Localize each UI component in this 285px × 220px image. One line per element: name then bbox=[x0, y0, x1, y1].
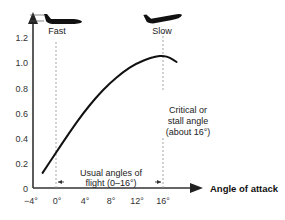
x-tick: −4° bbox=[24, 196, 38, 206]
lift-chart: 1.2 1.0 0.8 0.6 0.4 0.2 0 −4° 0° 4° 8° 1… bbox=[0, 0, 285, 220]
y-tick: 0.2 bbox=[15, 159, 28, 169]
x-tick: 0° bbox=[53, 196, 62, 206]
critical-label-line3: (about 16°) bbox=[166, 127, 211, 137]
y-tick: 0.6 bbox=[15, 109, 28, 119]
airplane-level-icon bbox=[30, 14, 82, 24]
critical-label-line2: stall angle bbox=[168, 116, 209, 126]
y-axis-arrow-icon bbox=[28, 12, 38, 24]
y-tick: 0.8 bbox=[15, 84, 28, 94]
airplane-nose-up-icon bbox=[143, 8, 182, 24]
usual-label-line2: flight (0–16°) bbox=[85, 178, 136, 188]
lift-curve bbox=[43, 56, 177, 173]
usual-label-line1: Usual angles of bbox=[80, 168, 143, 178]
x-tick: 4° bbox=[81, 196, 90, 206]
x-tick: 16° bbox=[156, 196, 170, 206]
y-tick: 1.0 bbox=[15, 58, 28, 68]
critical-label-line1: Critical or bbox=[169, 105, 207, 115]
y-tick-labels: 1.2 1.0 0.8 0.6 0.4 0.2 0 bbox=[15, 33, 28, 194]
x-tick: 12° bbox=[130, 196, 144, 206]
y-tick: 0.4 bbox=[15, 134, 28, 144]
x-axis-label: Angle of attack bbox=[210, 183, 279, 194]
x-tick: 8° bbox=[107, 196, 116, 206]
x-axis-arrow-icon bbox=[190, 183, 203, 193]
fast-label: Fast bbox=[48, 26, 66, 36]
y-tick: 1.2 bbox=[15, 33, 28, 43]
slow-label: Slow bbox=[152, 26, 172, 36]
y-tick: 0 bbox=[23, 184, 28, 194]
x-tick-labels: −4° 0° 4° 8° 12° 16° bbox=[24, 196, 170, 206]
